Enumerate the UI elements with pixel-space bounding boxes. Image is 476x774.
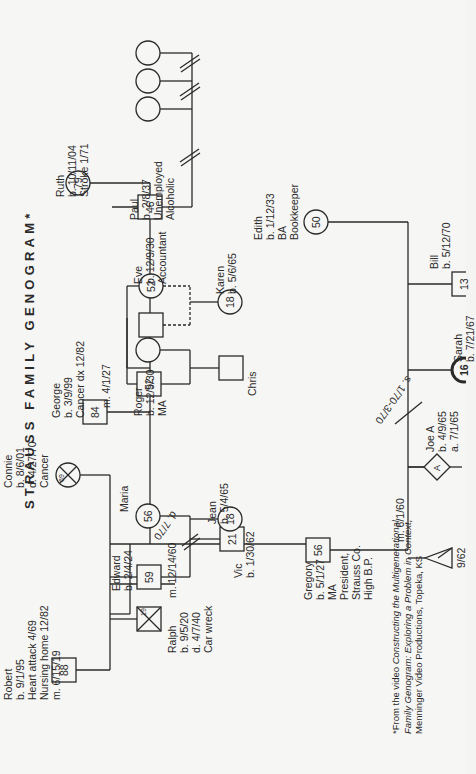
joe-label: Joe A b. 4/9/65 a. 7/1/65 [424, 411, 460, 452]
eve-label: Eve b. 12/9/30 Accountant [132, 231, 168, 284]
george-marriage: m. 4/1/27 [100, 364, 112, 408]
vic-label: Vic b. 1/30/62 [232, 531, 256, 578]
karen-label: Karen b. 5/6/65 [214, 253, 238, 294]
adoption-symbol: A [431, 465, 443, 471]
ralph-label: Ralph b. 9/5/20 d. 4/7/40 Car wreck [166, 606, 214, 653]
bill-label: Bill b. 5/12/70 [428, 222, 452, 269]
chris-label: Chris [246, 371, 258, 396]
karen-age: 18 [224, 296, 236, 308]
edward-label: Edward b. 2/4/24 [110, 550, 134, 591]
ruth-label: Ruth b. 10/11/04 Stroke 1/71 [54, 143, 90, 197]
miscarriage-label: 9/62 [455, 548, 467, 568]
paul-label: Paul b. 2/8/37 Unemployed Alcoholic [128, 161, 176, 220]
george-age: 84 [89, 406, 101, 418]
jean-label: Jean b. 5/4/65 [206, 483, 230, 524]
sarah-label: Sarah b. 7/21/67 [452, 315, 476, 362]
edward-age: 59 [143, 571, 155, 583]
roger-label: Roger b. 12/9/30 MA [132, 369, 168, 416]
maria-age: 56 [142, 510, 154, 522]
bill-age: 13 [458, 278, 470, 290]
maria-label: Maria [118, 486, 130, 512]
sarah-age: 16 [458, 364, 470, 376]
ralph-age: 19 [138, 608, 150, 616]
footnote: *From the video Constructing the Multige… [390, 520, 425, 734]
robert-label: Robert b. 9/1/95 Heart attack 4/69 Nursi… [2, 605, 62, 700]
edith-age: 50 [310, 216, 322, 228]
edith-label: Edith b. 1/12/33 BA Bookkeeper [252, 184, 300, 240]
george-label: George b. 3/9/99 Cancer dx 12/82 [50, 341, 86, 418]
connie-age: 69 [56, 474, 68, 482]
gregory-label: Gregory b. 5/1/27 MA President, Strauss … [302, 545, 374, 600]
connie-label: Connie b. 8/6/01 d. 4/27/70 Cancer [2, 441, 50, 488]
edward-marriage: m. 12/14/60 [166, 543, 178, 598]
